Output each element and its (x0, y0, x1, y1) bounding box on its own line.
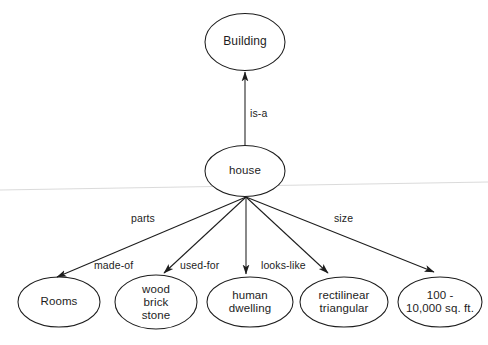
node-house-ellipse (205, 146, 285, 197)
node-shape-ellipse (300, 277, 388, 327)
node-building-ellipse (205, 14, 285, 71)
edge-made-of-label: made-of (94, 259, 133, 271)
semantic-network-diagram: Building house Rooms wood brick stone hu… (0, 0, 488, 345)
node-materials-ellipse (115, 275, 197, 329)
edge-parts-label: parts (131, 212, 155, 224)
diagram-canvas (0, 0, 488, 345)
edge-size-label: size (334, 212, 353, 224)
node-rooms-ellipse (18, 277, 100, 327)
node-size-ellipse (398, 277, 482, 327)
edge-used-for-label: used-for (180, 259, 219, 271)
edge-is-a-label: is-a (250, 107, 267, 119)
edge-looks-like-label: looks-like (261, 259, 306, 271)
node-dwelling-ellipse (207, 277, 293, 327)
